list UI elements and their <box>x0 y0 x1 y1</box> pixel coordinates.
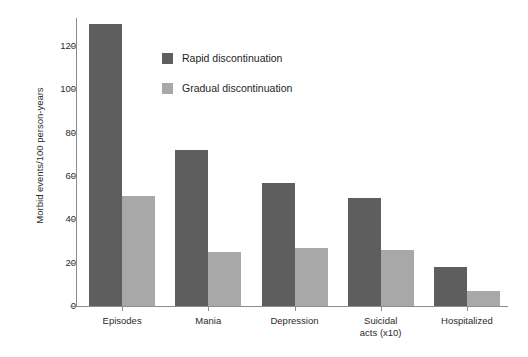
x-tick-mark <box>295 306 296 311</box>
legend-label-gradual: Gradual discontinuation <box>182 82 292 94</box>
x-tick-mark <box>122 306 123 311</box>
chart-legend: Rapid discontinuation Gradual discontinu… <box>162 48 292 108</box>
x-tick-label: Depression <box>247 315 343 327</box>
y-tick-mark <box>70 263 76 264</box>
bar-gradual <box>467 291 500 306</box>
legend-swatch-rapid-icon <box>162 53 173 64</box>
legend-item-gradual: Gradual discontinuation <box>162 78 292 98</box>
y-tick-mark <box>70 46 76 47</box>
y-tick-mark <box>70 176 76 177</box>
bar-group <box>348 18 414 306</box>
bar-chart: Morbid events/100 person-years 020406080… <box>0 0 528 357</box>
legend-item-rapid: Rapid discontinuation <box>162 48 292 68</box>
plot-area <box>77 18 508 306</box>
y-axis-title: Morbid events/100 person-years <box>34 41 45 271</box>
y-tick-mark <box>70 133 76 134</box>
x-tick-mark <box>208 306 209 311</box>
bar-rapid <box>175 150 208 306</box>
x-axis-line <box>76 306 508 307</box>
x-tick-mark <box>381 306 382 311</box>
bar-rapid <box>262 183 295 307</box>
y-tick-mark <box>70 219 76 220</box>
bar-group <box>89 18 155 306</box>
y-tick-mark <box>70 306 76 307</box>
bar-gradual <box>381 250 414 306</box>
x-tick-label: Hospitalized <box>419 315 515 327</box>
bar-rapid <box>348 198 381 306</box>
x-tick-label: Mania <box>160 315 256 327</box>
bar-group <box>434 18 500 306</box>
bar-rapid <box>434 267 467 306</box>
y-tick-mark <box>70 89 76 90</box>
x-tick-label: Episodes <box>74 315 170 327</box>
x-tick-label: Suicidal acts (x10) <box>333 315 429 338</box>
legend-label-rapid: Rapid discontinuation <box>182 52 282 64</box>
bar-gradual <box>295 248 328 307</box>
bar-gradual <box>122 196 155 307</box>
legend-swatch-gradual-icon <box>162 83 173 94</box>
bar-rapid <box>89 24 122 306</box>
bar-gradual <box>208 252 241 306</box>
x-tick-mark <box>467 306 468 311</box>
